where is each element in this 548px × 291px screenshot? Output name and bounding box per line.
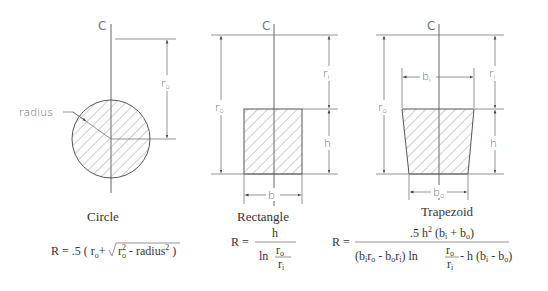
trapezoid-section <box>402 109 474 174</box>
svg-text:.5 h2 (bi + bo): .5 h2 (bi + bo) <box>410 225 474 241</box>
svg-text:- h (bi - bo): - h (bi - bo) <box>460 249 512 264</box>
h-label: h <box>324 137 331 150</box>
svg-text:R = .5 (ro+: R = .5 (ro+ <box>51 244 106 260</box>
formula-rectangle: R = h ln ro ri <box>231 226 296 272</box>
svg-text:R =: R = <box>332 235 350 249</box>
circle-figure: C ro radius Circle <box>19 19 176 224</box>
formula-circle: R = .5 (ro+ ro2 - radius2) <box>51 243 180 260</box>
svg-text:ro: ro <box>276 243 284 258</box>
svg-text:ri: ri <box>278 257 285 272</box>
centerline-label: C <box>262 19 270 33</box>
formula-trapezoid: R = .5 h2 (bi + bo) (biro - bori) ln ro … <box>332 225 512 272</box>
caption-circle: Circle <box>87 209 119 224</box>
rectangle-figure: C ro ri h b Rectangle <box>211 19 338 224</box>
centerline-label: C <box>427 19 435 33</box>
section-diagrams: C ro radius Circle C ro ri h b Rectangle <box>0 0 548 291</box>
svg-text:ro2 - radius2): ro2 - radius2) <box>118 243 176 260</box>
radius-label: radius <box>19 106 53 119</box>
svg-text:h: h <box>272 226 278 240</box>
caption-trapezoid: Trapezoid <box>421 204 474 219</box>
rectangle-section <box>244 109 302 174</box>
h-label: h <box>490 137 497 150</box>
svg-text:ln: ln <box>259 249 268 263</box>
svg-text:ri: ri <box>447 257 454 272</box>
b-label: b <box>268 189 275 202</box>
caption-rectangle: Rectangle <box>237 209 289 224</box>
svg-text:R =: R = <box>231 235 249 249</box>
trapezoid-figure: C bi ro ri h bo Trapezoid <box>376 19 504 219</box>
svg-text:(biro - bori) ln: (biro - bori) ln <box>355 249 418 264</box>
svg-text:ro: ro <box>446 243 454 258</box>
centerline-label: C <box>98 19 106 33</box>
